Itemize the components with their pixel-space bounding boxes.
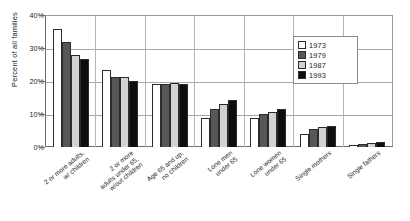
group-separator	[145, 16, 146, 147]
legend-item: 1979	[298, 50, 353, 60]
group-separator	[244, 16, 245, 147]
bar	[170, 83, 179, 147]
bar	[327, 126, 336, 147]
bar	[62, 42, 71, 147]
bar-chart: Percent of all families 0%10%20%30%40% 1…	[0, 0, 410, 221]
legend-label: 1973	[309, 41, 326, 50]
bar-group	[244, 16, 293, 147]
legend-label: 1979	[309, 51, 326, 60]
legend-item: 1973	[298, 40, 353, 50]
bar	[250, 118, 259, 147]
x-axis-labels: 2 or more adults,w/ children2 or moreadu…	[46, 149, 392, 221]
y-axis-tick-mark	[39, 147, 45, 148]
y-axis-tick-mark	[39, 114, 45, 115]
bar	[129, 81, 138, 147]
bar	[268, 112, 277, 147]
bar	[277, 109, 286, 147]
legend-swatch	[298, 51, 306, 59]
bar	[349, 145, 358, 147]
group-separator	[95, 16, 96, 147]
bar	[219, 104, 228, 147]
legend-item: 1993	[298, 70, 353, 80]
y-axis-tick-mark	[39, 48, 45, 49]
bar-group	[95, 16, 144, 147]
bar	[53, 29, 62, 147]
group-separator	[194, 16, 195, 147]
bar	[309, 129, 318, 147]
bar-group	[145, 16, 194, 147]
legend-label: 1987	[309, 61, 326, 70]
bar	[367, 143, 376, 147]
bar	[152, 84, 161, 147]
bar	[111, 77, 120, 147]
bar	[161, 84, 170, 147]
bar	[80, 59, 89, 147]
y-axis-tick-mark	[39, 15, 45, 16]
legend-swatch	[298, 61, 306, 69]
legend-swatch	[298, 41, 306, 49]
bar	[228, 100, 237, 147]
legend-label: 1993	[309, 71, 326, 80]
bar	[120, 77, 129, 147]
bar	[376, 142, 385, 147]
x-axis-label: Single fathers	[292, 149, 382, 221]
bar	[201, 118, 210, 147]
bar	[71, 55, 80, 147]
legend-item: 1987	[298, 60, 353, 70]
bar-group	[46, 16, 95, 147]
bar	[259, 114, 268, 147]
legend-swatch	[298, 71, 306, 79]
bar	[210, 109, 219, 147]
chart-legend: 1973197919871993	[293, 36, 358, 84]
bar	[300, 134, 309, 147]
bar	[102, 70, 111, 147]
bar	[358, 144, 367, 147]
y-axis-tick-mark	[39, 81, 45, 82]
bar	[318, 127, 327, 147]
bar	[179, 84, 188, 147]
bar-group	[194, 16, 243, 147]
